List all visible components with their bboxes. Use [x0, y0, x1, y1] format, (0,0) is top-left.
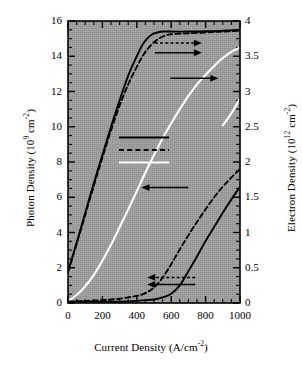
chart-figure: Photon Density (109 cm-2) Electron Densi…	[0, 0, 302, 367]
plot-canvas	[0, 0, 302, 367]
